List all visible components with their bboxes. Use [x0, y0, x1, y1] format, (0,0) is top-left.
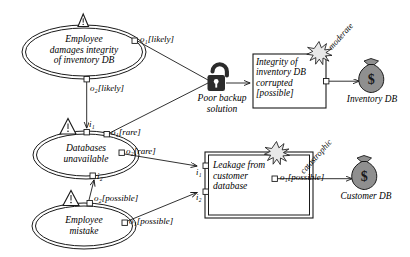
threat-databases-unavailable-label: Databases unavailable	[36, 143, 136, 164]
event-integrity-corrupted-label: Integrity of inventory DB corrupted [pos…	[256, 57, 326, 99]
port-leak-i2[interactable]	[203, 189, 208, 194]
asset-customer-db-label: Customer DB	[328, 191, 404, 201]
asset-inventory-db-label: Inventory DB	[334, 94, 410, 104]
open-padlock-icon[interactable]	[208, 64, 227, 91]
threat-employee-mistake-label: Employee mistake	[34, 215, 134, 236]
label-o1-possible-mistake: o₁[possible]	[129, 217, 173, 226]
diagram-canvas: $ $ Employee damages integrity of invent…	[0, 0, 410, 257]
label-leak-i1: i₁	[196, 168, 201, 177]
warning-triangle-icon	[63, 191, 79, 206]
label-o2-likely: o₂[likely]	[90, 84, 124, 93]
port-o2-likely[interactable]	[84, 77, 89, 82]
port-leak-i1[interactable]	[203, 163, 208, 168]
label-i1: i₁	[89, 120, 95, 129]
money-bag-icon[interactable]: $	[352, 156, 377, 190]
warning-triangle-icon	[78, 14, 89, 27]
label-o2-rare: o₂[rare]	[126, 147, 156, 156]
threat-employee-damages-label: Employee damages integrity of inventory …	[24, 34, 144, 66]
vulnerability-poor-backup-label: Poor backup solution	[176, 93, 268, 114]
label-i2: i₂	[97, 172, 103, 181]
label-leak-i2: i₂	[196, 193, 201, 202]
label-o1-rare: o₁[rare]	[111, 128, 141, 137]
edge-o1likely-to-lock	[138, 41, 208, 80]
port-i1[interactable]	[84, 130, 89, 135]
label-o1-likely: o₁[likely]	[140, 35, 174, 44]
port-o1-rare[interactable]	[104, 132, 109, 137]
warning-triangle-icon	[60, 119, 76, 135]
port-o2-possible[interactable]	[87, 201, 92, 206]
svg-text:$: $	[361, 169, 368, 184]
label-o2-possible: o₂[possible]	[94, 194, 138, 203]
money-bag-icon[interactable]: $	[359, 59, 384, 93]
svg-text:$: $	[368, 72, 375, 87]
port-i2[interactable]	[90, 173, 95, 178]
label-o1-possible-leak: o₁[possible]	[280, 173, 324, 182]
